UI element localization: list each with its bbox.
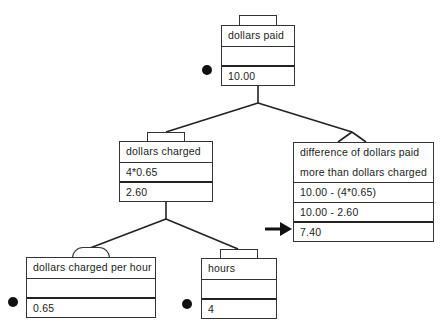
node-dollars-charged-per-hour[interactable]: dollars charged per hour 0.65 <box>26 257 156 318</box>
node-dollars-paid[interactable]: dollars paid 10.00 <box>221 25 295 86</box>
node-expression[interactable] <box>27 278 155 298</box>
given-marker-icon <box>182 299 192 309</box>
node-expression-1[interactable]: 10.00 - (4*0.65) <box>294 182 433 202</box>
node-label: hours <box>202 259 276 279</box>
node-dollars-charged[interactable]: dollars charged 4*0.65 2.60 <box>119 141 213 202</box>
quantity-network-diagram: dollars paid 10.00 dollars charged 4*0.6… <box>0 0 442 332</box>
node-expression[interactable] <box>222 46 294 66</box>
node-value[interactable]: 10.00 <box>222 65 294 85</box>
node-label-line2: more than dollars charged <box>294 163 433 183</box>
given-marker-icon <box>202 65 212 75</box>
node-value[interactable]: 7.40 <box>294 221 433 241</box>
node-hours[interactable]: hours 4 <box>201 258 277 319</box>
node-label: dollars charged <box>120 142 212 162</box>
node-label: dollars paid <box>222 26 294 46</box>
target-arrow-icon <box>265 222 292 236</box>
node-value[interactable]: 2.60 <box>120 181 212 201</box>
node-expression[interactable] <box>202 279 276 299</box>
node-value[interactable]: 0.65 <box>27 297 155 317</box>
node-value[interactable]: 4 <box>202 298 276 318</box>
node-label: dollars charged per hour <box>27 258 155 278</box>
node-label-line1: difference of dollars paid <box>294 143 433 163</box>
node-expression[interactable]: 4*0.65 <box>120 162 212 182</box>
node-difference[interactable]: difference of dollars paid more than dol… <box>293 142 434 242</box>
node-expression-2[interactable]: 10.00 - 2.60 <box>294 202 433 222</box>
given-marker-icon <box>8 297 18 307</box>
